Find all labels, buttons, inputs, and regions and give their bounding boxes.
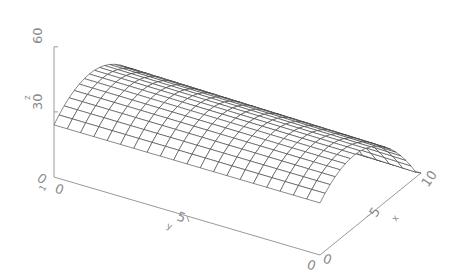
x-axis-title: x: [389, 212, 401, 223]
z-tick-label-30: 30: [30, 93, 45, 110]
y-tick-label-10b: 0: [53, 181, 66, 198]
y-tick-label-0: 0: [305, 257, 318, 274]
z-tick-label-60: 60: [30, 27, 45, 44]
z-axis-title: z: [22, 95, 32, 100]
y-axis-title: y: [165, 220, 174, 231]
y-tick-label-5: 5: [175, 209, 188, 226]
x-tick-label-5: 5: [366, 204, 383, 219]
plot-canvas: 6030z0105y005x10: [0, 0, 465, 278]
x-tick-label-10: 10: [418, 168, 440, 190]
surface-plot: 6030z0105y005x10: [0, 0, 465, 278]
surface-mesh: [54, 64, 421, 203]
